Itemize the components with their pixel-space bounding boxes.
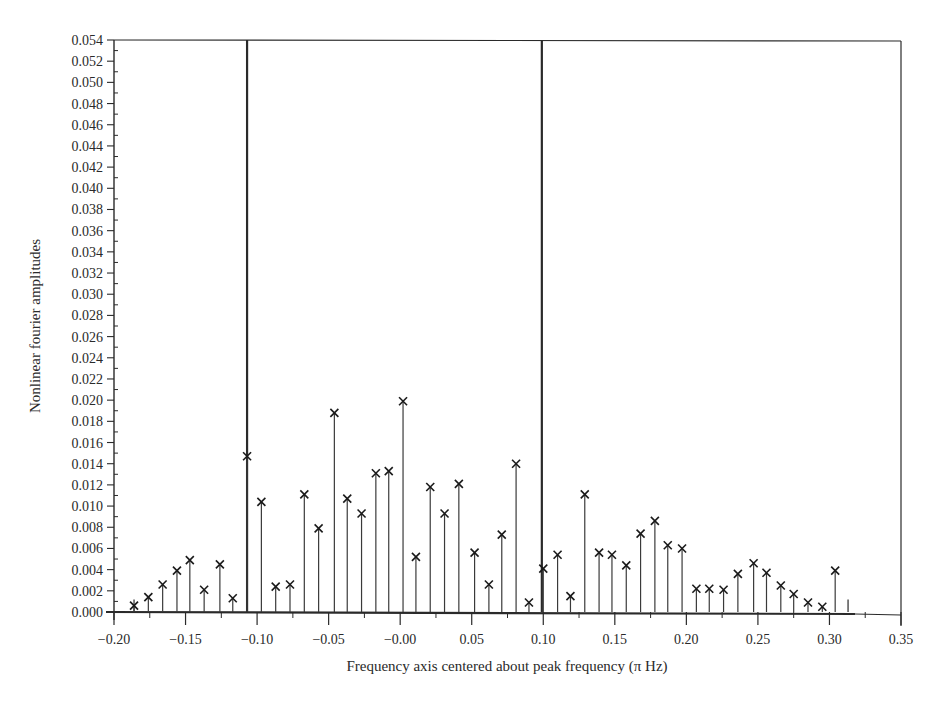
stem [173,567,181,612]
y-tick-label: 0.014 [72,457,104,472]
stem [608,551,616,612]
stem [144,593,152,612]
stem [441,509,449,612]
stem [595,549,603,612]
stem [622,561,630,612]
y-tick-label: 0.016 [72,436,104,451]
stem [455,480,463,612]
y-tick-label: 0.024 [72,351,104,366]
stem [790,590,798,612]
stem [818,603,826,612]
stem [186,556,194,612]
x-tick-label: −0.05 [312,632,344,647]
stem [257,498,265,612]
stem [734,570,742,612]
y-tick-label: 0.018 [72,414,104,429]
stem [315,524,323,612]
stem [581,490,589,612]
y-tick-label: 0.028 [72,308,104,323]
y-tick-label: 0.052 [72,54,104,69]
y-tick-label: 0.012 [72,478,104,493]
stem [678,544,686,612]
stem [200,586,208,612]
stem [385,467,393,612]
stem [286,580,294,612]
stem [300,490,308,612]
y-tick-label: 0.032 [72,266,104,281]
stem-chart: 0.0000.0020.0040.0060.0080.0100.0120.014… [0,0,938,702]
y-axis-title: Nonlinear fourier amplitudes [27,239,43,413]
y-tick-label: 0.022 [72,372,104,387]
stem [831,567,839,612]
x-baseline [106,612,855,614]
x-tick-label: −0.20 [98,632,130,647]
x-tick-label: −0.15 [169,632,201,647]
stem [412,553,420,612]
stem [512,460,520,612]
stem [804,598,812,612]
stem [216,560,224,612]
stem [692,585,700,612]
stem [566,592,574,612]
stem [272,583,280,612]
y-tick-label: 0.054 [72,33,104,48]
stem [525,598,533,612]
x-tick-label: 0.05 [459,632,484,647]
stem [637,530,645,612]
stem [372,469,380,612]
stem [498,531,506,612]
stem [229,594,237,612]
x-baseline-end [855,614,901,615]
stem [750,559,758,612]
y-tick-label: 0.006 [72,541,104,556]
y-tick-label: 0.026 [72,330,104,345]
y-tick-label: 0.036 [72,224,104,239]
stem [243,452,251,612]
stem [651,517,659,612]
stem [426,483,434,612]
x-axis: −0.20−0.15−0.10−0.05−0.000.050.100.150.2… [98,612,913,647]
y-tick-label: 0.030 [72,287,104,302]
y-tick-label: 0.020 [72,393,104,408]
y-tick-label: 0.034 [72,245,104,260]
y-tick-label: 0.038 [72,202,104,217]
stem [664,541,672,612]
y-tick-label: 0.000 [72,605,104,620]
y-tick-label: 0.040 [72,181,104,196]
stem [399,397,407,612]
stem [159,580,167,612]
y-tick-label: 0.048 [72,97,104,112]
stem [343,495,351,612]
stem [330,409,338,612]
y-tick-label: 0.042 [72,160,104,175]
x-tick-label: 0.20 [674,632,699,647]
x-tick-label: 0.25 [746,632,771,647]
x-tick-label: 0.30 [817,632,842,647]
y-tick-label: 0.010 [72,499,104,514]
stem [705,585,713,612]
stem [720,586,728,612]
stem [471,549,479,612]
stem [485,580,493,612]
frame-top [114,40,901,41]
x-tick-label: 0.35 [889,632,914,647]
y-tick-label: 0.044 [72,139,104,154]
stem [358,509,366,612]
x-tick-label: −0.00 [384,632,416,647]
x-axis-title: Frequency axis centered about peak frequ… [346,658,667,675]
x-tick-label: 0.15 [603,632,628,647]
y-tick-label: 0.004 [72,563,104,578]
x-tick-label: −0.10 [241,632,273,647]
y-tick-label: 0.008 [72,520,104,535]
y-tick-label: 0.046 [72,118,104,133]
stem [539,565,547,612]
stem [762,569,770,612]
boundary-lines [134,40,848,612]
y-tick-label: 0.002 [72,584,104,599]
stem-series [130,397,839,612]
stem [554,551,562,612]
plot-frame [114,40,901,626]
stem [777,582,785,612]
x-tick-label: 0.10 [531,632,556,647]
y-tick-label: 0.050 [72,75,104,90]
